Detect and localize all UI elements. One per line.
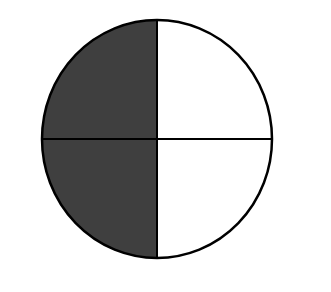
fraction-circle-diagram: [0, 0, 331, 292]
shaded-quadrant-top-left: [42, 20, 157, 139]
shaded-quadrant-bottom-left: [42, 139, 157, 258]
